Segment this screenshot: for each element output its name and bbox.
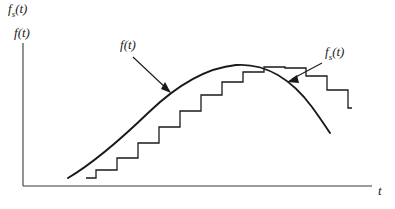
figure-background (0, 0, 395, 209)
axis-label-t: t (378, 184, 382, 197)
axis-label-f: f(t) (14, 26, 30, 39)
axis-label-fs: fs(t) (8, 2, 27, 19)
annotation-label-f: f(t) (120, 38, 136, 51)
sampled-signal-figure (0, 0, 395, 209)
axis-label-fs-arg: (t) (15, 1, 27, 16)
annotation-label-f-arg: (t) (124, 37, 136, 52)
annotation-label-fs-arg: (t) (332, 44, 344, 59)
axis-label-f-arg: (t) (18, 25, 30, 40)
annotation-label-fs: fs(t) (325, 45, 344, 62)
